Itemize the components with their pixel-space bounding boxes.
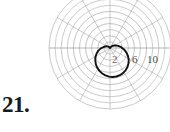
problem-number: 21. xyxy=(2,93,29,116)
tick-label-6-text: 6 xyxy=(132,53,138,65)
tick-label-2: 2 xyxy=(112,53,118,65)
figure-page: 2 6 10 21. xyxy=(0,0,170,132)
tick-label-10: 10 xyxy=(147,53,159,65)
tick-label-10-text: 10 xyxy=(147,53,159,65)
tick-label-6: 6 xyxy=(132,53,138,65)
tick-label-2-text: 2 xyxy=(112,53,118,65)
